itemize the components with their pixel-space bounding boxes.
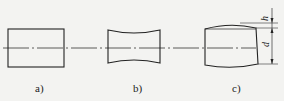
shape-c-convex xyxy=(205,25,258,67)
shape-b-concave xyxy=(108,30,160,63)
arrow-d-bottom xyxy=(271,59,274,64)
dimension-d-label: d xyxy=(260,42,271,47)
panel-a-label: a) xyxy=(35,82,44,94)
panel-c-label: c) xyxy=(232,82,241,94)
panel-b-label: b) xyxy=(133,82,142,94)
diagram-canvas: h d a) b) c) xyxy=(0,0,284,101)
dimension-h-label: h xyxy=(259,16,270,21)
arrow-h xyxy=(271,18,274,23)
arrow-d-top xyxy=(271,28,274,33)
